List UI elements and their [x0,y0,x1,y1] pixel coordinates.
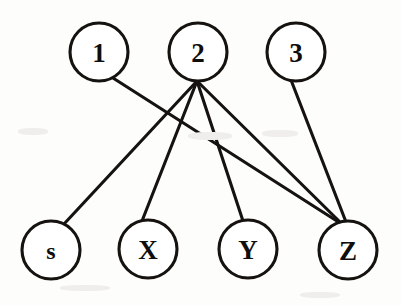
node-Z[interactable]: Z [319,221,377,279]
node-s-label: s [46,238,56,264]
edge-1-to-Z [113,78,340,223]
node-s[interactable]: s [22,221,80,279]
node-1[interactable]: 1 [70,23,128,81]
bipartite-graph: 1 2 3 s X Y [0,0,401,305]
node-3[interactable]: 3 [267,23,325,81]
node-3-label: 3 [289,38,303,68]
node-2[interactable]: 2 [169,23,227,81]
diagram-canvas: 1 2 3 s X Y [0,0,401,305]
edge-group [64,78,346,224]
bottom-node-group: s X Y Z [22,220,377,279]
node-Z-label: Z [339,236,357,266]
edge-2-to-s [64,81,197,224]
node-X-label: X [138,235,158,265]
top-node-group: 1 2 3 [70,23,325,81]
node-1-label: 1 [92,38,106,68]
node-X[interactable]: X [119,220,177,278]
node-Y[interactable]: Y [219,220,277,278]
node-Y-label: Y [238,235,258,265]
node-2-label: 2 [191,38,205,68]
